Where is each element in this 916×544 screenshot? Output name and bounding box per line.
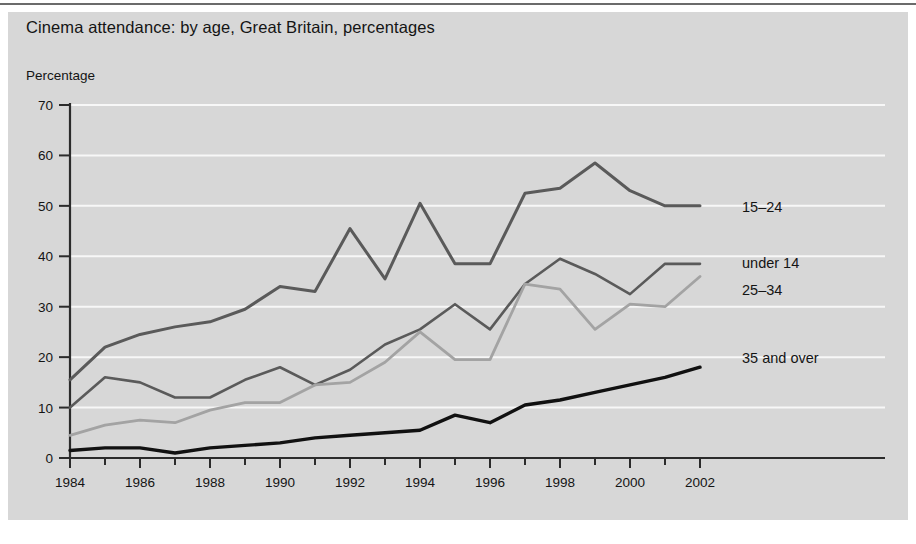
y-tick-label: 0 <box>45 451 53 466</box>
x-tick-label: 1986 <box>125 475 155 490</box>
x-tick-label: 1992 <box>335 475 365 490</box>
x-tick-label: 1998 <box>545 475 575 490</box>
y-tick-label: 10 <box>38 401 53 416</box>
series-label-under-14: under 14 <box>742 255 799 271</box>
series-label-35-and-over: 35 and over <box>742 350 819 366</box>
x-tick-label: 1984 <box>55 475 86 490</box>
y-tick-label: 60 <box>38 148 53 163</box>
y-tick-label: 30 <box>38 300 53 315</box>
y-tick-label: 70 <box>38 98 53 113</box>
y-tick-label: 50 <box>38 199 53 214</box>
series-label-15-24: 15–24 <box>742 199 782 215</box>
x-axis-ticks-group: 1984198619881990199219941996199820002002 <box>55 458 715 490</box>
x-tick-label: 1990 <box>265 475 295 490</box>
plot-area: 010203040506070 198419861988199019921994… <box>0 0 916 544</box>
x-tick-label: 1996 <box>475 475 505 490</box>
chart-figure: Cinema attendance: by age, Great Britain… <box>0 0 916 544</box>
series-label-25-34: 25–34 <box>742 282 782 298</box>
series-line-15-24 <box>70 163 700 380</box>
x-tick-label: 2002 <box>685 475 715 490</box>
y-tick-label: 20 <box>38 350 53 365</box>
x-tick-label: 1994 <box>405 475 436 490</box>
y-tick-label: 40 <box>38 249 53 264</box>
series-line-under-14 <box>70 259 700 408</box>
series-line-25-34 <box>70 276 700 435</box>
series-line-35-and-over <box>70 367 700 453</box>
x-tick-label: 2000 <box>615 475 645 490</box>
x-tick-label: 1988 <box>195 475 225 490</box>
series-labels-group: 15–24under 1425–3435 and over <box>742 199 819 366</box>
y-axis-ticks-group: 010203040506070 <box>38 98 70 466</box>
